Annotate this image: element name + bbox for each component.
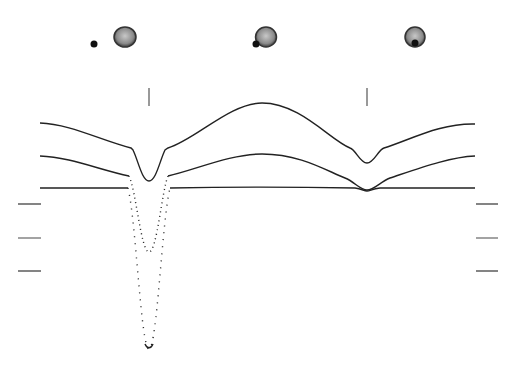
companion-star-icon [412, 40, 419, 47]
binary-snapshot-1 [91, 27, 137, 48]
right-scale-marks [476, 204, 498, 271]
left-scale-marks [18, 204, 41, 271]
light-curve-diagram [0, 0, 516, 372]
binary-snapshot-3 [405, 27, 425, 47]
companion-star-icon [91, 41, 98, 48]
binary-snapshot-2 [253, 27, 277, 48]
middle-curve-eclipse-dip [129, 176, 168, 252]
bottom-light-curve [40, 187, 475, 191]
primary-star-icon [114, 27, 136, 47]
companion-star-icon [253, 41, 260, 48]
bottom-curve-eclipse-dip [128, 188, 170, 349]
middle-light-curve [40, 154, 475, 190]
